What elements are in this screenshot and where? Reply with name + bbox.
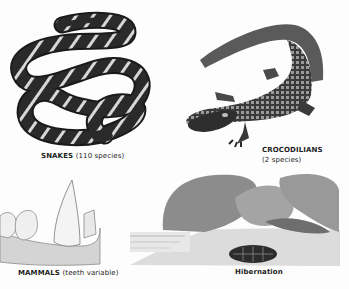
hibernation-caption: Hibernation bbox=[235, 268, 283, 276]
mammals-caption-main: MAMMALS bbox=[18, 269, 60, 277]
snake-illustration-icon bbox=[0, 0, 175, 150]
snake-panel: SNAKES (110 species) bbox=[0, 0, 175, 175]
snake-caption-detail: (110 species) bbox=[76, 152, 125, 160]
mammal-teeth-panel: MAMMALS (teeth variable) bbox=[0, 180, 140, 289]
turtle-hibernation-illustration-icon bbox=[125, 170, 349, 270]
hibernation-caption-text: Hibernation bbox=[235, 268, 283, 276]
crocodilian-caption-line1: CROCODILIANS bbox=[262, 145, 323, 155]
alligator-illustration-icon bbox=[175, 0, 349, 150]
snake-caption-main: SNAKES bbox=[41, 152, 73, 160]
crocodilian-caption-line2: (2 species) bbox=[262, 155, 323, 165]
crocodilian-panel: CROCODILIANS (2 species) bbox=[175, 0, 349, 175]
hibernation-panel: Hibernation bbox=[125, 170, 349, 289]
snake-caption: SNAKES (110 species) bbox=[41, 152, 124, 160]
mammals-caption: MAMMALS (teeth variable) bbox=[18, 269, 119, 277]
crocodilian-caption: CROCODILIANS (2 species) bbox=[262, 145, 323, 165]
mammals-caption-detail: (teeth variable) bbox=[62, 269, 118, 277]
teeth-illustration-icon bbox=[0, 180, 140, 275]
